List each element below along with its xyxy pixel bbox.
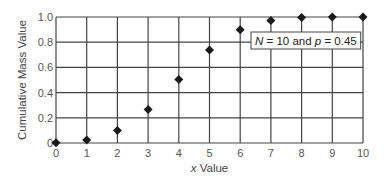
annotation-text: N = 10 and p = 0.45 xyxy=(255,35,357,47)
x-tick-label: 5 xyxy=(206,147,212,159)
cumulative-mass-chart: 012345678910 00.20.40.60.81.0 x Value Cu… xyxy=(0,0,388,178)
y-axis-ticks: 00.20.40.60.81.0 xyxy=(38,11,53,149)
x-tick-label: 9 xyxy=(329,147,335,159)
annotation-box: N = 10 and p = 0.45 xyxy=(251,32,361,49)
x-tick-label: 6 xyxy=(237,147,243,159)
data-point xyxy=(174,75,183,84)
x-axis-label-rest: Value xyxy=(196,162,228,174)
data-point xyxy=(144,105,153,114)
y-tick-label: 0.8 xyxy=(38,36,53,48)
data-point xyxy=(236,25,245,34)
x-axis-ticks: 012345678910 xyxy=(53,147,369,159)
data-point xyxy=(297,13,306,22)
x-tick-label: 3 xyxy=(145,147,151,159)
data-point xyxy=(359,13,368,22)
y-tick-label: 0.2 xyxy=(38,112,53,124)
y-tick-label: 0.4 xyxy=(38,87,53,99)
data-point xyxy=(328,13,337,22)
x-tick-label: 2 xyxy=(114,147,120,159)
data-point xyxy=(205,45,214,54)
y-axis-label: Cumulative Mass Value xyxy=(16,20,28,140)
y-tick-label: 0.6 xyxy=(38,61,53,73)
x-tick-label: 1 xyxy=(84,147,90,159)
x-axis-label: x Value xyxy=(190,162,229,174)
x-tick-label: 4 xyxy=(176,147,182,159)
x-tick-label: 7 xyxy=(268,147,274,159)
annotation-part: = 10 and xyxy=(263,35,314,47)
annotation-part: = 0.45 xyxy=(321,35,357,47)
y-tick-label: 1.0 xyxy=(38,11,53,23)
x-tick-label: 10 xyxy=(357,147,369,159)
x-tick-label: 0 xyxy=(53,147,59,159)
x-tick-label: 8 xyxy=(299,147,305,159)
data-point xyxy=(113,126,122,135)
